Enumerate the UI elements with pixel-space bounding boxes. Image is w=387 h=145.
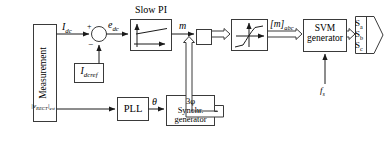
idcref-label: Idcref <box>74 66 104 78</box>
label-fs: fs <box>320 86 325 97</box>
slow-pi-caption: Slow PI <box>121 5 181 16</box>
label-edc: edc <box>108 20 119 33</box>
svm-generator-label: SVMgenerator <box>303 24 347 44</box>
bus-svm-to-output <box>347 29 356 40</box>
synchr-generator-label: 3φSynchr.generator <box>166 97 215 124</box>
control-block-diagram: Measurement Idc |vRECT|est + − edc Idcre… <box>0 0 387 145</box>
label-vrect: |vRECT|est <box>31 103 55 112</box>
switching-signals-label: Sa Sb Sc <box>355 19 368 53</box>
label-theta: θ <box>152 97 157 107</box>
label-m: m <box>179 21 186 31</box>
label-idc: Idc <box>62 22 72 35</box>
label-sum-minus: − <box>88 40 93 49</box>
label-sum-plus: + <box>87 23 92 31</box>
label-m-abc: [m]abc <box>270 20 294 31</box>
multiplier-block <box>197 30 212 45</box>
summing-junction <box>92 27 107 42</box>
measurement-label: Measurement <box>39 33 49 113</box>
bus-mult-to-sat <box>212 29 231 40</box>
pll-label: PLL <box>117 103 149 114</box>
